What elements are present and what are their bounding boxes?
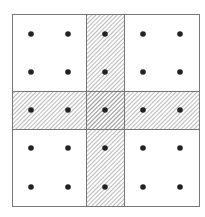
grid-dot [65, 184, 71, 190]
grid-dot [140, 145, 146, 151]
grid-dot [28, 184, 34, 190]
grid-dot [140, 69, 146, 75]
grid-dot [102, 184, 108, 190]
grid-dot [28, 145, 34, 151]
grid-dot [28, 31, 34, 37]
grid-dot [102, 145, 108, 151]
grid-dot [65, 107, 71, 113]
grid-dot [28, 69, 34, 75]
grid-dot [102, 31, 108, 37]
grid-dot [102, 69, 108, 75]
grid-dot [102, 107, 108, 113]
grid-dot [65, 31, 71, 37]
grid-dot [65, 69, 71, 75]
grid-dot [65, 145, 71, 151]
grid-dot [177, 145, 183, 151]
grid-dot [177, 31, 183, 37]
grid-dot [28, 107, 34, 113]
grid-dot [177, 69, 183, 75]
grid-dot [140, 107, 146, 113]
hatched-grid-diagram [0, 0, 205, 217]
grid-dot [140, 184, 146, 190]
grid-dot [177, 107, 183, 113]
grid-dot [140, 31, 146, 37]
grid-dot [177, 184, 183, 190]
